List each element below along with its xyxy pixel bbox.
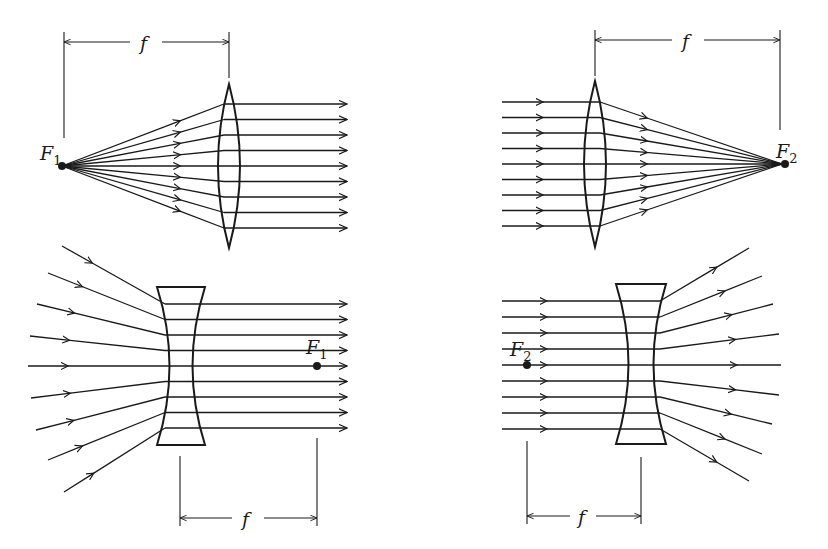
light-ray [48,413,165,461]
light-ray [600,149,782,165]
focal-length-label: f [576,506,588,528]
light-ray [30,336,165,351]
focal-point-f1 [313,362,321,370]
light-ray [62,120,224,167]
light-ray [37,304,165,335]
light-ray [660,304,773,333]
diverging-lens [616,284,666,444]
light-ray [48,273,165,320]
light-ray [600,164,782,195]
panel-converging-f2: f F2 [502,30,797,247]
light-ray [36,397,165,430]
focal-length-dimension: f [595,30,780,130]
light-ray [62,166,224,228]
ray-fan [62,104,347,228]
light-ray [600,164,782,226]
focal-point-label: F2 [509,338,531,364]
light-ray [62,166,224,213]
light-ray [660,248,749,301]
light-ray [62,166,224,197]
panel-diverging-f2: F2 f [502,248,781,528]
light-ray [62,166,224,182]
light-ray [600,164,782,211]
light-ray [62,151,224,167]
panel-converging-f1: f F1 [39,32,347,248]
focal-length-label: f [138,32,150,54]
light-ray [62,246,165,304]
ray-fan [502,248,781,481]
light-ray [600,133,782,164]
light-ray [660,334,779,349]
light-ray [660,381,779,395]
light-ray [660,429,749,481]
light-ray [660,413,762,454]
focal-length-label: f [680,30,692,52]
focal-length-label: f [240,508,252,530]
focal-point-label: F1 [39,142,61,168]
light-ray [31,382,165,399]
panel-diverging-f1: F1 f [28,246,347,530]
focal-length-dimension: f [527,441,641,528]
light-ray [600,118,782,165]
light-ray [600,102,782,164]
lens-diagram: f F1 f F2 F1 f [0,0,828,549]
light-ray [62,104,224,166]
focal-length-dimension: f [64,32,229,138]
focal-length-dimension: f [180,438,317,530]
focal-point-label: F1 [305,336,327,362]
light-ray [64,428,165,492]
light-ray [600,164,782,180]
light-ray [62,135,224,166]
ray-fan [502,102,782,226]
ray-fan [28,246,347,492]
